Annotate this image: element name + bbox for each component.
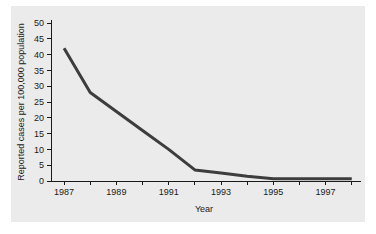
y-tick-label: 40 — [34, 50, 44, 60]
x-axis-tick-marks — [64, 181, 352, 185]
x-axis-title: Year — [195, 204, 213, 214]
x-axis-tick-labels: 198719891991199319951997 — [54, 187, 336, 197]
y-tick-label: 35 — [34, 66, 44, 76]
chart-figure: 05101520253035404550 1987198919911993199… — [0, 0, 376, 234]
x-tick-label: 1991 — [159, 187, 179, 197]
y-axis-tick-labels: 05101520253035404550 — [34, 18, 44, 186]
y-tick-label: 30 — [34, 81, 44, 91]
y-tick-label: 10 — [34, 145, 44, 155]
plot-area: 05101520253035404550 1987198919911993199… — [0, 0, 376, 234]
y-tick-label: 0 — [39, 176, 44, 186]
y-axis-title: Reported cases per 100,000 population — [16, 23, 26, 181]
data-series-line — [64, 48, 352, 179]
line-chart-svg: 05101520253035404550 1987198919911993199… — [0, 0, 376, 234]
x-tick-label: 1987 — [54, 187, 74, 197]
x-tick-label: 1997 — [316, 187, 336, 197]
y-axis-tick-marks — [47, 23, 51, 181]
y-tick-label: 25 — [34, 97, 44, 107]
y-tick-label: 5 — [39, 160, 44, 170]
x-tick-label: 1993 — [211, 187, 231, 197]
y-tick-label: 45 — [34, 34, 44, 44]
y-tick-label: 20 — [34, 113, 44, 123]
y-tick-label: 50 — [34, 18, 44, 28]
x-tick-label: 1989 — [106, 187, 126, 197]
x-tick-label: 1995 — [263, 187, 283, 197]
y-tick-label: 15 — [34, 129, 44, 139]
